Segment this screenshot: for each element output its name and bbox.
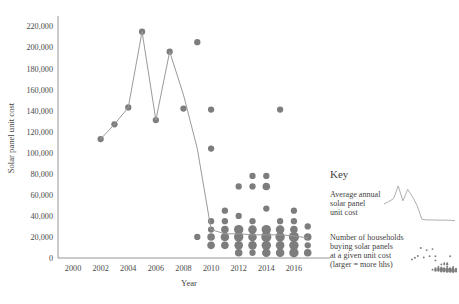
bubble-marker [180,105,186,111]
bubble-marker [207,242,215,250]
bubble-marker [234,241,243,250]
key-bubble-marker [455,268,457,270]
chart-key: Key Average annual solar panel unit cost… [330,168,457,273]
key-bubble-marker [417,255,419,257]
key-bubble-marker [437,270,439,272]
bubble-marker [249,250,255,256]
y-tick-label: 80,000 [30,170,53,179]
x-tick-label: 2008 [175,264,191,273]
bubble-marker [248,241,257,250]
y-tick-label: 100,000 [26,149,53,158]
key-bubble-marker [420,247,422,249]
bubble-marker [221,242,229,250]
bubble-marker [277,218,283,224]
bubble-marker [248,233,257,242]
key-bubble-marker [429,255,431,257]
household-bubble-markers [98,29,312,258]
bubble-marker [289,232,299,242]
y-tick-label: 60,000 [30,191,53,200]
bubble-marker [275,232,284,241]
x-axis-title: Year [181,278,197,288]
bubble-marker [249,218,255,224]
bubble-marker [262,248,271,257]
key-bubble-marker [435,259,437,261]
x-tick-label: 2010 [203,264,219,273]
key-line-label-line2: solar panel [330,199,366,208]
bubble-marker [304,233,312,241]
key-bubble-marker [452,270,455,273]
key-bubble-marker [449,270,452,273]
key-bubble-marker [452,267,454,269]
key-scatter-label-line1: Number of households [330,233,404,242]
key-bubble-marker [446,270,449,273]
bubble-marker [222,207,228,213]
bubble-marker [208,106,214,112]
key-bubble-marker [411,258,413,260]
key-bubble-marker [455,270,457,272]
x-tick-label: 2012 [231,264,247,273]
bubble-marker [261,232,271,242]
bubble-marker [235,249,243,257]
bubble-marker [236,213,242,219]
bubble-marker [304,249,312,257]
key-bubble-marker [440,263,442,265]
x-tick-label: 2004 [120,264,136,273]
key-bubble-marker [432,269,434,271]
key-bubble-marker [432,248,434,250]
key-bubble-marker [426,249,428,251]
bubble-marker [263,173,269,179]
x-axis-tick-labels: 200020022004200620082010201220142016 [65,264,302,273]
key-line-label-line1: Average annual [330,190,381,199]
bubble-marker [208,145,214,151]
bubble-marker [289,248,298,257]
key-scatter-label-line3: at a given unit cost [330,251,392,260]
y-tick-label: 0 [49,254,53,263]
bubble-marker [276,241,285,250]
key-bubble-marker [449,267,451,269]
bubble-marker [221,226,229,234]
y-axis-title: Solar panel unit cost [6,102,16,173]
bubble-marker [305,242,311,248]
bubble-marker [276,248,285,257]
x-tick-label: 2014 [258,264,274,273]
key-bubble-marker [423,256,425,258]
y-tick-label: 220,000 [26,22,53,31]
key-line-swatch [384,186,455,221]
bubble-marker [291,207,297,213]
y-tick-label: 140,000 [26,107,53,116]
bubble-marker [249,173,255,179]
bubble-marker [194,234,200,240]
key-bubble-marker [440,270,442,272]
bubble-marker [222,218,228,224]
key-bubble-swatch [411,247,457,273]
bubble-marker [277,106,283,112]
x-tick-label: 2002 [92,264,108,273]
bubble-marker [249,183,255,189]
key-bubble-marker [443,263,445,265]
key-bubble-marker [443,270,445,272]
y-tick-label: 120,000 [26,128,53,137]
bubble-marker [236,183,242,189]
bubble-marker [263,183,271,191]
bubble-marker [194,39,200,45]
bubble-marker [305,223,311,229]
solar-panel-cost-chart: 020,00040,00060,00080,000100,000120,0001… [0,0,459,304]
key-scatter-label-line2: buying solar panels [330,242,393,251]
x-tick-label: 2000 [65,264,81,273]
chart-container: 020,00040,00060,00080,000100,000120,0001… [0,0,459,304]
y-tick-label: 20,000 [30,233,53,242]
key-bubble-marker [446,266,448,268]
bubble-marker [291,218,297,224]
y-tick-label: 160,000 [26,86,53,95]
key-bubble-marker [446,263,448,265]
key-bubble-marker [414,257,416,259]
y-tick-label: 40,000 [30,212,53,221]
bubble-marker [207,233,215,241]
key-title: Key [330,168,349,180]
y-tick-label: 200,000 [26,43,53,52]
key-bubble-marker [449,255,451,257]
bubble-marker [263,205,269,211]
x-tick-label: 2006 [148,264,164,273]
bubble-marker [248,225,257,234]
key-bubble-marker [434,270,436,272]
